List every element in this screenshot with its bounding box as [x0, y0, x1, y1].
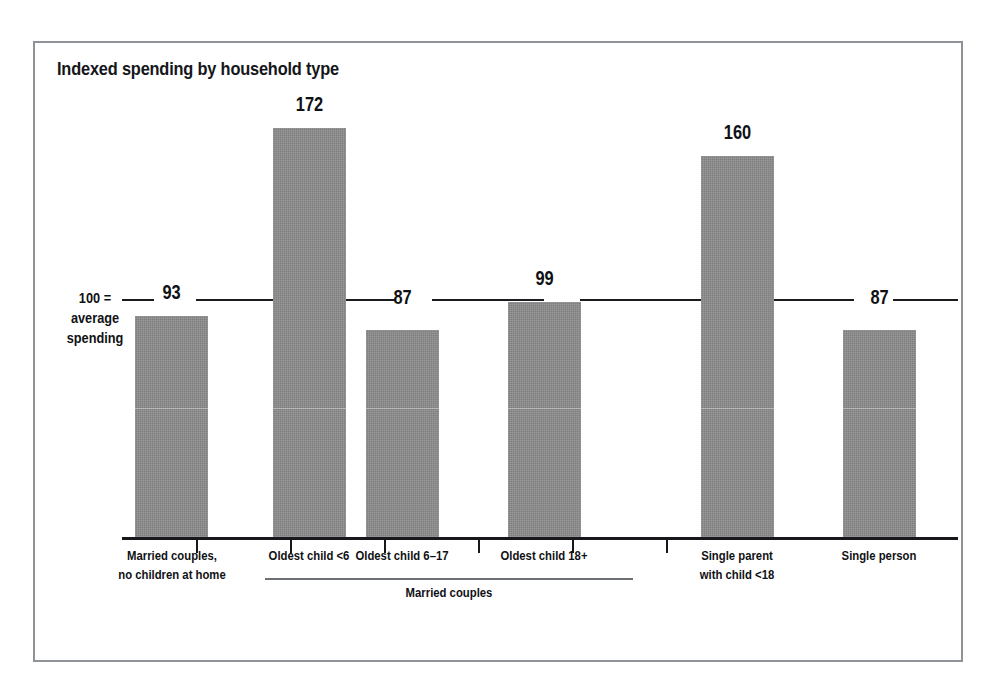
- category-label-line1: Single parent: [678, 546, 796, 565]
- axis-tick: [478, 540, 480, 553]
- reference-line-text-2: spending: [58, 328, 131, 348]
- reference-line-value: 100 =: [58, 288, 131, 308]
- bar-oldest-child-18-plus: [508, 302, 581, 537]
- axis-tick: [666, 540, 668, 553]
- group-bracket-label: Married couples: [289, 585, 609, 600]
- bar-value-label: 160: [706, 121, 769, 144]
- category-label-single-person: Single person: [820, 546, 938, 565]
- bar-value-label: 99: [513, 267, 576, 290]
- bar-seam: [701, 408, 774, 409]
- bar-value-label: 172: [278, 93, 341, 116]
- category-label-oldest-child-6-17: Oldest child 6–17: [343, 546, 461, 565]
- category-label-line1: Single person: [820, 546, 938, 565]
- bar-oldest-child-6-17: [366, 330, 439, 537]
- category-label-single-parent: Single parent with child <18: [678, 546, 796, 584]
- bar-seam: [508, 408, 581, 409]
- category-label-line2: with child <18: [678, 565, 796, 584]
- bar-married-no-children: [135, 316, 208, 537]
- plot-area: 93 172 87 99 160 87 100 = average spendi…: [0, 0, 997, 694]
- category-label-line1: Oldest child 6–17: [343, 546, 461, 565]
- bar-single-person: [843, 330, 916, 537]
- x-axis-line: [122, 537, 958, 540]
- bar-value-label: 93: [140, 281, 203, 304]
- bar-value-label: 87: [848, 286, 911, 309]
- reference-line-text-1: average: [58, 308, 131, 328]
- category-label-married-no-children: Married couples, no children at home: [113, 546, 231, 584]
- group-bracket-line: [265, 578, 633, 580]
- bar-value-label: 87: [371, 286, 434, 309]
- bar-oldest-child-under-6: [273, 128, 346, 537]
- bar-seam: [273, 408, 346, 409]
- reference-line-annotation: 100 = average spending: [58, 288, 131, 348]
- chart-page: Indexed spending by household type: [0, 0, 997, 694]
- category-label-oldest-child-18-plus: Oldest child 18+: [485, 546, 603, 565]
- reference-line-segment: [432, 299, 544, 301]
- category-label-line2: no children at home: [113, 565, 231, 584]
- bar-seam: [843, 408, 916, 409]
- category-label-line1: Married couples,: [113, 546, 231, 565]
- bar-seam: [366, 408, 439, 409]
- category-label-line1: Oldest child 18+: [485, 546, 603, 565]
- bar-seam: [135, 408, 208, 409]
- bar-single-parent-with-child: [701, 156, 774, 537]
